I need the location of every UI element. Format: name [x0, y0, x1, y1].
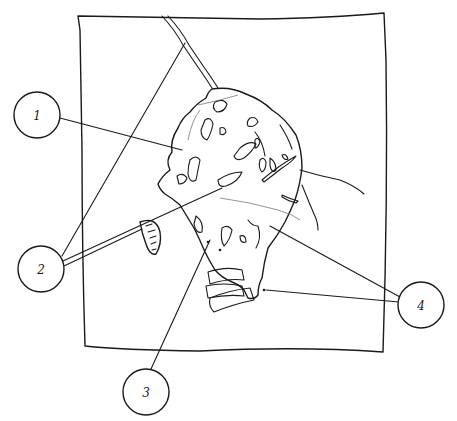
callout-1-label: 1	[33, 109, 41, 123]
landmass-details	[177, 95, 300, 291]
rock-formation	[206, 268, 254, 312]
callout-2-label: 2	[36, 263, 45, 277]
river-bank	[168, 16, 218, 88]
diagram-canvas: 1 2 3 4	[0, 0, 457, 421]
east-river	[300, 170, 364, 194]
callout-3-label: 3	[142, 386, 150, 400]
callout-3: 3	[123, 369, 169, 415]
river	[162, 16, 212, 88]
frame-border	[78, 13, 387, 352]
callout-2: 2	[18, 246, 64, 292]
landmass-outline	[158, 88, 302, 298]
callout-4: 4	[398, 282, 444, 328]
hatched-object	[140, 220, 161, 254]
callout-4-label: 4	[416, 299, 425, 313]
callout-1: 1	[14, 92, 60, 138]
southeast-river	[302, 185, 318, 230]
leader-lines	[60, 43, 400, 369]
